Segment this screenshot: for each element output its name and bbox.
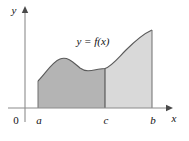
figure-container: y x 0 a c b y = f(x): [0, 0, 189, 141]
tick-label-b: b: [150, 114, 156, 126]
x-axis-label: x: [171, 112, 177, 124]
region-a-to-c: [38, 58, 105, 108]
region-c-to-b: [105, 30, 152, 108]
curve-equation-label: y = f(x): [75, 35, 109, 48]
y-axis-label: y: [11, 4, 17, 16]
tick-label-c: c: [104, 114, 109, 126]
integral-area-diagram: y x 0 a c b y = f(x): [0, 0, 189, 141]
y-axis-arrow-icon: [22, 6, 28, 13]
origin-label: 0: [13, 114, 19, 126]
tick-label-a: a: [36, 114, 42, 126]
x-axis-arrow-icon: [166, 105, 173, 111]
